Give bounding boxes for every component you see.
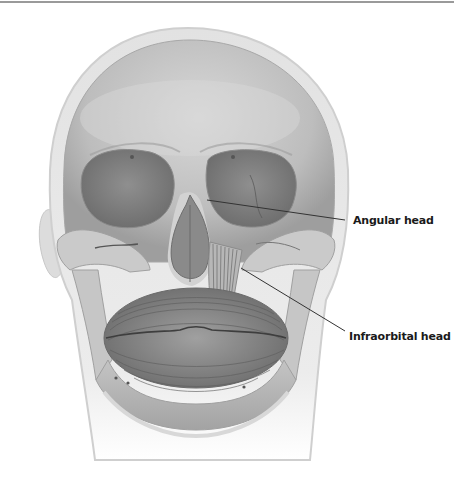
- skull-illustration: [0, 0, 454, 481]
- label-infraorbital-head: Infraorbital head: [349, 330, 451, 343]
- label-angular-head: Angular head: [353, 214, 434, 227]
